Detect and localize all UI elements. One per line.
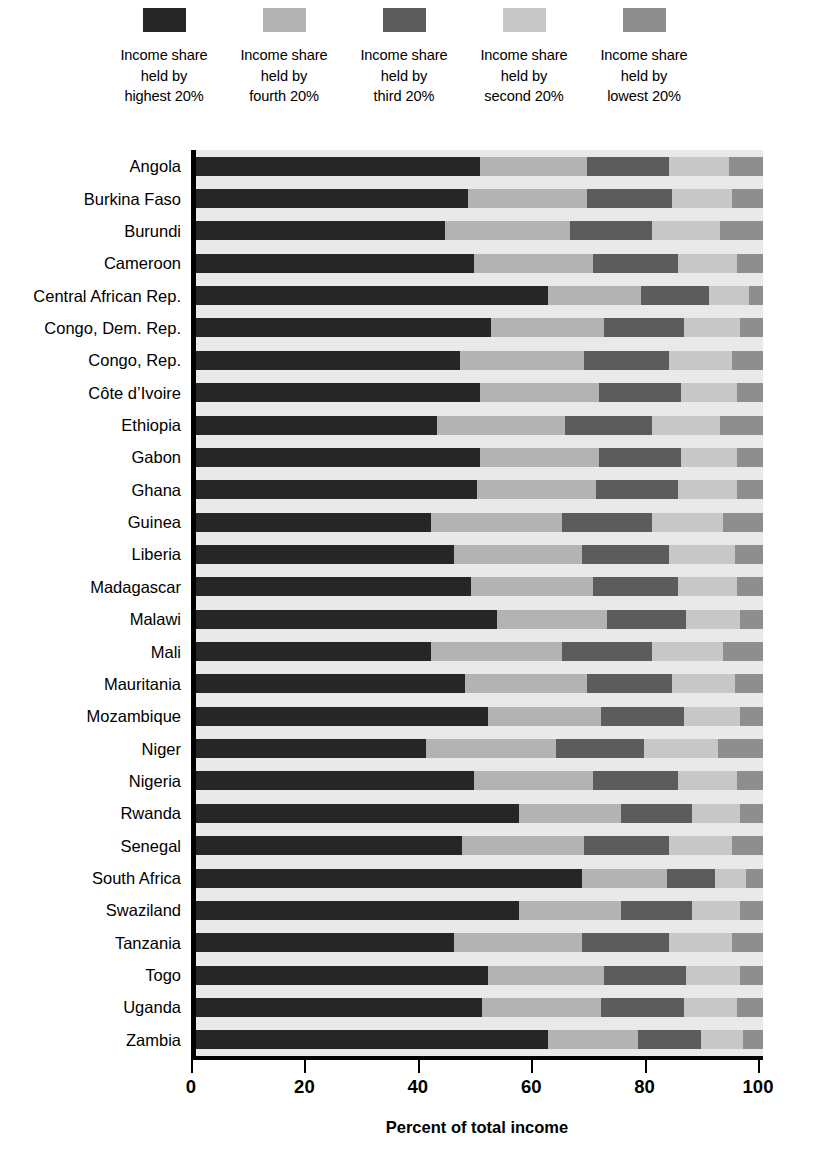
bar-segment [570,221,652,240]
bar-segment [488,707,601,726]
bar-segment [593,577,678,596]
bar-row [196,448,763,467]
bar-segment [737,480,763,499]
y-axis-label: Burundi [0,222,181,240]
bar-segment [678,254,738,273]
bar-segment [669,351,731,370]
bar-segment [548,286,642,305]
bar-row [196,416,763,435]
bar-segment [732,189,763,208]
bar-segment [437,416,565,435]
bar-segment [735,674,763,693]
bar-segment [593,254,678,273]
y-axis-label: Niger [0,740,181,758]
bar-row [196,707,763,726]
bar-segment [556,739,644,758]
bar-segment [652,416,720,435]
bar-segment [692,901,740,920]
legend-item-second: Income share held by second 20% [464,8,584,107]
bar-segment [497,610,608,629]
bar-segment [584,836,669,855]
bar-row [196,254,763,273]
x-axis-tick [645,1060,647,1073]
y-axis-label: Ghana [0,481,181,499]
bar-segment [735,545,763,564]
x-axis-tick [758,1060,760,1073]
legend-label-second: Income share held by second 20% [480,45,567,107]
bar-segment [678,577,738,596]
bar-row [196,933,763,952]
bar-segment [488,966,604,985]
bar-segment [587,157,669,176]
bar-segment [641,286,709,305]
x-axis-tick-label: 20 [294,1076,315,1098]
chart-legend: Income share held by highest 20%Income s… [104,8,704,107]
bar-segment [672,674,734,693]
bar-segment [431,642,561,661]
bar-segment [474,771,593,790]
bar-segment [681,448,738,467]
bar-row [196,836,763,855]
bar-segment [672,189,732,208]
y-axis-label: Madagascar [0,578,181,596]
bar-segment [715,869,746,888]
bar-segment [482,998,601,1017]
bar-segment [196,869,582,888]
y-axis-label: Uganda [0,998,181,1016]
bar-segment [684,318,741,337]
bar-segment [669,157,729,176]
bar-segment [426,739,556,758]
bar-segment [196,739,426,758]
bar-segment [196,513,431,532]
y-axis-label: Cameroon [0,254,181,272]
x-axis-title: Percent of total income [191,1118,763,1137]
legend-label-third: Income share held by third 20% [360,45,447,107]
bar-row [196,771,763,790]
bar-segment [462,836,584,855]
bar-segment [740,901,763,920]
bar-segment [196,545,454,564]
bar-segment [519,804,621,823]
y-axis-label: Mozambique [0,707,181,725]
bar-row [196,286,763,305]
bar-segment [196,933,454,952]
bar-row [196,804,763,823]
bar-segment [196,1030,548,1049]
bar-segment [196,254,474,273]
y-axis-label: Senegal [0,837,181,855]
bar-segment [686,966,740,985]
bar-segment [678,771,738,790]
bar-segment [737,577,763,596]
bar-row [196,513,763,532]
bar-segment [196,966,488,985]
legend-swatch-fourth [263,8,306,32]
legend-item-fourth: Income share held by fourth 20% [224,8,344,107]
bar-segment [601,998,683,1017]
y-axis-label: Tanzania [0,934,181,952]
y-axis-label: Malawi [0,610,181,628]
x-axis-tick [304,1060,306,1073]
bar-segment [599,383,681,402]
legend-swatch-third [383,8,426,32]
bar-row [196,480,763,499]
y-axis-label: Mali [0,643,181,661]
legend-swatch-lowest [623,8,666,32]
bar-segment [196,351,460,370]
bar-segment [431,513,561,532]
bar-segment [652,513,723,532]
legend-item-third: Income share held by third 20% [344,8,464,107]
y-axis-label: Togo [0,966,181,984]
bar-segment [737,998,763,1017]
y-axis-label: Nigeria [0,772,181,790]
bar-segment [709,286,749,305]
bar-segment [652,221,720,240]
bar-segment [621,901,692,920]
y-axis-label: Ethiopia [0,416,181,434]
bar-segment [474,254,593,273]
legend-label-highest: Income share held by highest 20% [120,45,207,107]
bar-segment [587,674,672,693]
bar-segment [740,707,763,726]
bar-segment [468,189,587,208]
bar-segment [723,642,763,661]
bar-segment [669,545,734,564]
